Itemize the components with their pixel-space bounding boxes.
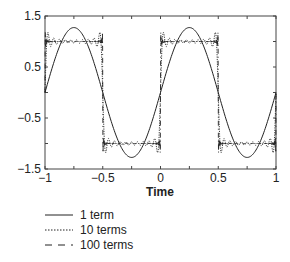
x-tick-label: −0.5 — [91, 171, 115, 185]
x-tick-label: 1 — [273, 171, 280, 185]
series-1-terms — [45, 28, 276, 158]
y-tick-label: −1.5 — [17, 162, 41, 176]
y-tick-label: −0.5 — [17, 111, 41, 125]
legend-item-10-terms: 10 terms — [45, 223, 127, 237]
series-lines — [45, 28, 276, 158]
plot-area — [45, 16, 276, 169]
legend-label: 100 terms — [80, 238, 133, 252]
legend: 1 term 10 terms 100 terms — [45, 208, 133, 252]
legend-item-1-term: 1 term — [45, 208, 114, 222]
legend-label: 10 terms — [80, 223, 127, 237]
y-tick-labels: −1.5−0.50.51.5 — [17, 9, 41, 176]
x-tick-label: 0.5 — [210, 171, 227, 185]
legend-item-100-terms: 100 terms — [45, 238, 133, 252]
x-axis-label: Time — [146, 185, 174, 199]
x-tick-labels: −1−0.500.51 — [38, 171, 280, 185]
fourier-chart: −1−0.500.51 −1.5−0.50.51.5 Time 1 term 1… — [0, 0, 290, 262]
legend-label: 1 term — [80, 208, 114, 222]
x-tick-label: 0 — [157, 171, 164, 185]
y-tick-label: 1.5 — [24, 9, 41, 23]
y-tick-label: 0.5 — [24, 60, 41, 74]
